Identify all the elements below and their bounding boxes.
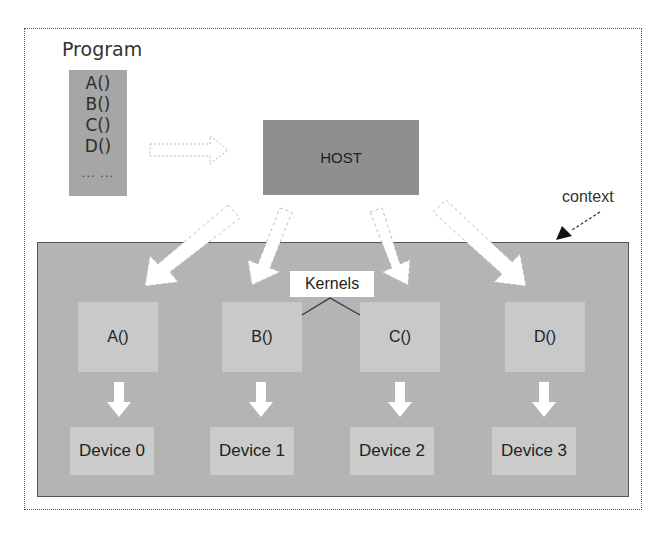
- kernels-bracket: [302, 298, 360, 315]
- kernel-to-device-1-arrow-icon: [249, 382, 273, 417]
- context-pointer-arrow-icon: [556, 212, 600, 240]
- kernel-to-device-2-arrow-icon: [388, 382, 412, 417]
- host-to-kernel-d-arrow-icon: [433, 200, 526, 286]
- kernel-to-device-3-arrow-icon: [532, 382, 556, 417]
- host-to-kernel-c-arrow-icon: [370, 208, 410, 285]
- kernel-to-device-0-arrow-icon: [107, 382, 131, 417]
- host-to-kernel-b-arrow-icon: [248, 208, 292, 285]
- arrows-layer: [0, 0, 665, 548]
- host-to-kernel-a-arrow-icon: [145, 205, 240, 286]
- program-to-host-arrow-icon: [150, 136, 228, 164]
